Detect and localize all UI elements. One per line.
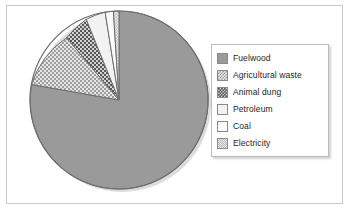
legend-item-label: Electricity — [233, 138, 270, 149]
animal-dung-swatch-icon — [217, 87, 228, 98]
legend-item-fuelwood[interactable]: Fuelwood — [217, 50, 324, 66]
electricity-swatch-icon — [217, 138, 228, 149]
fuelwood-swatch-icon — [217, 53, 228, 64]
legend-item-animal-dung[interactable]: Animal dung — [217, 84, 324, 100]
screenshot-root: Fuelwood Agricultural waste Animal dung … — [0, 0, 351, 212]
legend-item-agricultural-waste[interactable]: Agricultural waste — [217, 67, 324, 83]
agricultural-waste-swatch-icon — [217, 70, 228, 81]
legend-item-coal[interactable]: Coal — [217, 118, 324, 134]
legend-item-petroleum[interactable]: Petroleum — [217, 101, 324, 117]
coal-swatch-icon — [217, 121, 228, 132]
legend-item-electricity[interactable]: Electricity — [217, 135, 324, 151]
petroleum-swatch-icon — [217, 104, 228, 115]
legend-item-label: Agricultural waste — [233, 70, 302, 81]
legend-item-label: Petroleum — [233, 104, 273, 115]
chart-legend: Fuelwood Agricultural waste Animal dung … — [211, 44, 329, 157]
legend-item-label: Coal — [233, 121, 251, 132]
legend-item-label: Fuelwood — [233, 53, 271, 64]
legend-item-label: Animal dung — [233, 87, 281, 98]
